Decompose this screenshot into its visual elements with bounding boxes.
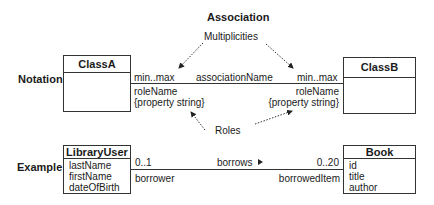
class-a-box: ClassA: [63, 55, 131, 112]
library-user-attributes: lastName firstName dateOfBirth: [64, 159, 130, 193]
notation-left-property: {property string}: [134, 97, 205, 108]
example-association-name: borrows: [217, 157, 253, 168]
example-association-line: [131, 169, 343, 170]
attribute: id: [349, 160, 415, 171]
notation-association-line: [131, 83, 343, 84]
notation-right-role: roleName: [280, 86, 339, 97]
notation-association-name: associationName: [196, 72, 273, 83]
association-title: Association: [207, 12, 269, 23]
example-left-role: borrower: [135, 173, 174, 184]
example-right-role: borrowedItem: [270, 173, 340, 184]
book-attributes: id title author: [344, 159, 415, 193]
attribute: title: [349, 171, 415, 182]
class-b-box: ClassB: [343, 57, 416, 114]
attribute: firstName: [69, 171, 130, 182]
roles-label: Roles: [215, 125, 241, 136]
class-b-name: ClassB: [344, 58, 415, 78]
example-right-multiplicity: 0..20: [300, 157, 339, 168]
notation-right-multiplicity: min..max: [297, 72, 338, 83]
attribute: lastName: [69, 160, 130, 171]
multiplicities-label: Multiplicities: [204, 31, 258, 42]
notation-label: Notation: [18, 74, 63, 85]
attribute: author: [349, 182, 415, 193]
direction-triangle-icon: [258, 159, 263, 165]
library-user-box: LibraryUser lastName firstName dateOfBir…: [63, 145, 131, 194]
example-label: Example: [17, 162, 62, 173]
notation-left-multiplicity: min..max: [134, 72, 175, 83]
class-a-name: ClassA: [64, 56, 130, 73]
attribute: dateOfBirth: [69, 182, 130, 193]
notation-right-property: {property string}: [260, 97, 339, 108]
library-user-name: LibraryUser: [64, 146, 130, 159]
example-left-multiplicity: 0..1: [135, 157, 152, 168]
book-name: Book: [344, 146, 415, 159]
notation-left-role: roleName: [134, 86, 177, 97]
book-box: Book id title author: [343, 145, 416, 194]
